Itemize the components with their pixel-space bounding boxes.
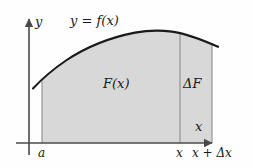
y-axis-label: y xyxy=(35,15,42,28)
figure-container: y x y = f(x) F(x) ΔF a x x + Δx xyxy=(0,0,253,168)
x-tick-label-a: a xyxy=(38,147,45,159)
area-label-f-of-x: F(x) xyxy=(103,77,130,90)
x-axis-label: x xyxy=(195,120,202,133)
area-label-delta-f: ΔF xyxy=(183,77,201,90)
x-tick-label-x: x xyxy=(176,147,183,159)
curve-equation-label: y = f(x) xyxy=(70,14,119,27)
x-tick-label-x-plus-delta-x: x + Δx xyxy=(192,147,232,159)
